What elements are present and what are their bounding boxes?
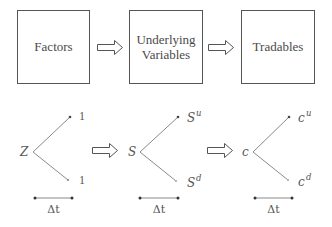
tree-up-label-base: S bbox=[187, 111, 195, 125]
tree-up-label: 1 bbox=[79, 109, 85, 123]
arrow-bottom-1 bbox=[93, 144, 118, 158]
box-tradables: Tradables bbox=[242, 11, 315, 84]
hollow-right-arrow-icon bbox=[209, 41, 234, 55]
tree-down-label: 1 bbox=[79, 173, 85, 187]
tree-down-label-sup: d bbox=[306, 172, 312, 182]
hollow-right-arrow-icon bbox=[208, 144, 233, 158]
arrow-top-1 bbox=[98, 41, 123, 55]
time-interval-label: Δt bbox=[153, 203, 166, 216]
time-interval-label: Δt bbox=[267, 203, 280, 216]
box-factors-label: Factors bbox=[34, 39, 72, 54]
box-underlying-label-line1: Underlying bbox=[136, 32, 196, 47]
tree-root-label: Z bbox=[19, 145, 29, 159]
box-factors: Factors bbox=[18, 11, 90, 84]
tree-up-label-sup: u bbox=[306, 108, 311, 118]
tree-root-label: S bbox=[128, 145, 136, 159]
diagram-canvas: Factors Underlying Variables Tradables Z… bbox=[0, 0, 332, 227]
tree-up-label-base: c bbox=[298, 111, 305, 125]
arrow-bottom-2 bbox=[208, 144, 233, 158]
tree-down-label-base: c bbox=[298, 175, 305, 189]
tree-tradable: c c u c d Δt bbox=[242, 108, 312, 216]
tree-root-label: c bbox=[242, 145, 249, 159]
tree-down-label-sup: d bbox=[196, 173, 202, 183]
tree-zero-coupon: Z 1 1 Δt bbox=[19, 109, 85, 216]
tree-down-label-base: S bbox=[187, 176, 195, 190]
box-tradables-label: Tradables bbox=[253, 39, 304, 54]
box-underlying-label-line2: Variables bbox=[142, 47, 190, 62]
tree-up-label-sup: u bbox=[196, 108, 201, 118]
time-interval-label: Δt bbox=[47, 203, 60, 216]
tree-underlying: S S u S d Δt bbox=[128, 108, 202, 216]
box-underlying-variables: Underlying Variables bbox=[130, 11, 203, 84]
arrow-top-2 bbox=[209, 41, 234, 55]
hollow-right-arrow-icon bbox=[93, 144, 118, 158]
hollow-right-arrow-icon bbox=[98, 41, 123, 55]
